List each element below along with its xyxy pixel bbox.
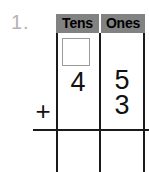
problem-number-label: 1. (11, 12, 30, 32)
column-header-ones: Ones (101, 14, 145, 33)
carry-input-box[interactable] (62, 38, 90, 66)
answer-cell-ones[interactable] (101, 131, 143, 172)
place-value-header-row: Tens Ones (56, 14, 145, 33)
digit-tens-addend-one: 4 (63, 69, 93, 96)
plus-operator-symbol: + (33, 98, 53, 124)
digit-ones-addend-two: 3 (107, 92, 137, 119)
answer-cell-tens[interactable] (58, 131, 99, 172)
column-header-tens: Tens (56, 14, 99, 33)
addition-worksheet-problem: 1. Tens Ones 4 5 3 + (0, 0, 149, 172)
table-border-right (143, 33, 145, 172)
